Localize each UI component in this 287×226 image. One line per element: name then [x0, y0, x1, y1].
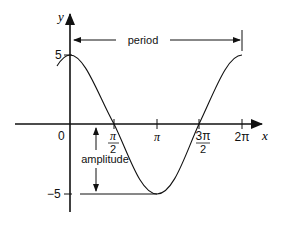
amplitude-label: amplitude: [81, 153, 129, 165]
period-label: period: [128, 34, 159, 46]
x-tick-label-2pi: 2π: [235, 130, 250, 144]
origin-label: 0: [58, 129, 65, 143]
x-tick-label-pi-half-num: π: [110, 129, 117, 143]
y-tick-label-neg5: −5: [47, 187, 61, 201]
x-tick-label-pi: π: [154, 130, 161, 144]
x-tick-label-pi-half-den: 2: [110, 143, 116, 155]
y-axis-label: y: [56, 9, 64, 24]
x-tick-label-3pi-half-num: 3π: [196, 129, 211, 143]
cosine-graph: period amplitude y x 5 −5 0 π 2 π 3π 2 2…: [0, 0, 287, 226]
x-axis-label: x: [261, 128, 268, 143]
y-tick-label-5: 5: [55, 48, 62, 62]
x-tick-label-3pi-half-den: 2: [200, 143, 206, 155]
